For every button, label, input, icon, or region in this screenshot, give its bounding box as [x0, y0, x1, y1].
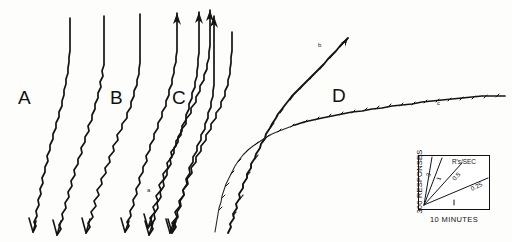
group-label-a: A — [18, 88, 31, 107]
inset-y-axis-label: 300 RESPONSES — [415, 152, 424, 214]
cumulative-curve-d-c-late — [295, 96, 505, 125]
inset-rate-0-5: 0.5 — [451, 170, 462, 181]
cumulative-record-figure: A B C D a b c R's/SEC 3 1 0.5 0.25 300 R… — [0, 0, 512, 242]
cumulative-curve-a2 — [57, 16, 104, 235]
inset-x-axis-label: 10 MINUTES — [418, 215, 490, 224]
pen-reset-mark-a3 — [82, 218, 90, 233]
cumulative-curve-c1 — [148, 10, 210, 228]
cumulative-curve-c2 — [170, 32, 232, 233]
cumulative-curve-a3 — [86, 14, 140, 233]
curve-group-a — [29, 14, 140, 235]
point-label-b: b — [318, 42, 321, 48]
inset-rate-3: 3 — [424, 172, 432, 178]
rate-calibration-inset: R's/SEC 3 1 0.5 0.25 300 RESPONSES 10 MI… — [400, 152, 508, 240]
group-label-d: D — [332, 86, 346, 105]
inset-rate-0-25: 0.25 — [469, 180, 483, 192]
point-label-a: a — [147, 187, 150, 193]
cumulative-curve-a1 — [33, 18, 70, 232]
group-label-c: C — [172, 88, 186, 107]
endpoint-marker-d-b — [341, 38, 348, 47]
cumulative-curve-d-c-early — [215, 125, 295, 232]
curve-group-b — [121, 12, 218, 235]
pen-reset-mark-a2 — [53, 220, 61, 235]
cumulative-curve-d-b — [228, 38, 348, 233]
inset-rate-lines: R's/SEC 3 1 0.5 0.25 — [418, 155, 490, 210]
group-label-b: B — [110, 88, 123, 107]
inset-rate-1: 1 — [434, 175, 442, 181]
response-ticks-d-b — [233, 43, 343, 216]
point-label-c: c — [437, 100, 440, 106]
inset-rate-header: R's/SEC — [452, 158, 476, 165]
curve-group-c — [144, 10, 232, 233]
cumulative-curve-b1 — [125, 13, 177, 232]
cumulative-curve-b3 — [172, 16, 214, 233]
